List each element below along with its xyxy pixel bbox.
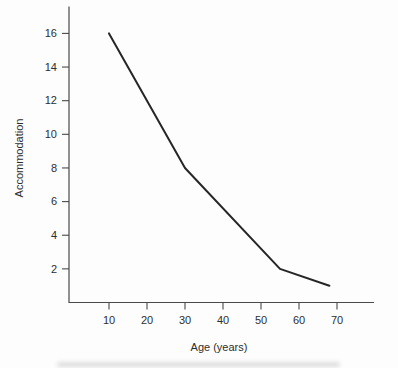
x-tick-label: 60 (293, 314, 305, 326)
axes-line (69, 7, 374, 303)
y-tick-label: 10 (45, 128, 57, 140)
scan-artifact-smudge (57, 362, 340, 367)
x-tick-label: 70 (331, 314, 343, 326)
x-axis-title: Age (years) (191, 341, 248, 353)
x-tick-label: 30 (179, 314, 191, 326)
y-tick-label: 4 (51, 229, 57, 241)
y-tick-label: 12 (45, 94, 57, 106)
x-tick-label: 10 (103, 314, 115, 326)
y-tick-label: 8 (51, 162, 57, 174)
y-tick-label: 2 (51, 263, 57, 275)
x-tick-label: 20 (141, 314, 153, 326)
y-tick-label: 14 (45, 61, 57, 73)
x-tick-label: 40 (217, 314, 229, 326)
y-axis-title: Accommodation (13, 119, 25, 198)
chart-canvas: 24681012141610203040506070 (0, 0, 398, 368)
figure: 24681012141610203040506070 Accommodation… (0, 0, 398, 368)
x-tick-label: 50 (255, 314, 267, 326)
y-tick-label: 16 (45, 27, 57, 39)
data-line (109, 33, 329, 285)
y-tick-label: 6 (51, 195, 57, 207)
